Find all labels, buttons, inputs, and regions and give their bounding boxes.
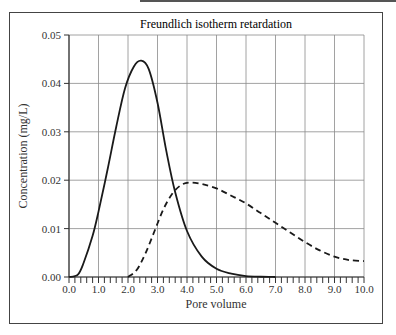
x-tick-label: 9.0 (328, 283, 342, 295)
x-tick-label: 0.0 (62, 283, 76, 295)
x-tick-label: 8.0 (298, 283, 312, 295)
x-tick-label: 2.0 (121, 283, 135, 295)
x-tick-label: 3.0 (151, 283, 165, 295)
y-tick-label: 0.03 (42, 126, 62, 138)
series-solid-line (69, 61, 276, 277)
y-tick-label: 0.04 (42, 77, 62, 89)
grid (69, 35, 364, 277)
y-tick-label: 0.02 (42, 174, 61, 186)
y-tick-label: 0.00 (42, 271, 62, 283)
y-tick-label: 0.05 (42, 29, 62, 41)
x-tick-label: 6.0 (239, 283, 253, 295)
x-tick-label: 4.0 (180, 283, 194, 295)
x-tick-label: 5.0 (210, 283, 224, 295)
chart: Freundlich isotherm retardation 0.01.02.… (0, 0, 396, 335)
x-tick-label: 10.0 (354, 283, 374, 295)
x-tick-label: 1.0 (92, 283, 106, 295)
x-tick-label: 7.0 (269, 283, 283, 295)
y-tick-label: 0.01 (42, 223, 61, 235)
axes: 0.01.02.03.04.05.06.07.08.09.010.00.000.… (42, 29, 374, 295)
chart-title: Freundlich isotherm retardation (140, 17, 292, 31)
y-axis-label: Concentration (mg/L) (16, 104, 30, 209)
x-axis-label: Pore volume (186, 297, 247, 311)
